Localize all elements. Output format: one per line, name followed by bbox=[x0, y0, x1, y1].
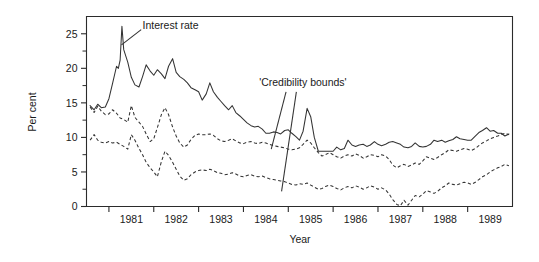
x-tick-label: 1982 bbox=[165, 213, 189, 225]
interest-rate-label: Interest rate bbox=[143, 19, 199, 31]
x-tick-label: 1983 bbox=[209, 213, 233, 225]
x-tick-label: 1986 bbox=[344, 213, 368, 225]
y-tick-label: 20 bbox=[66, 62, 78, 74]
x-tick-label: 1989 bbox=[478, 213, 502, 225]
x-tick-label: 1984 bbox=[254, 213, 278, 225]
x-tick-label: 1985 bbox=[299, 213, 323, 225]
x-axis-title: Year bbox=[289, 233, 311, 245]
x-tick-label: 1988 bbox=[434, 213, 458, 225]
chart-canvas: 0510152025 19811982198319841985198619871… bbox=[0, 0, 539, 262]
credibility-bounds-label: 'Credibility bounds' bbox=[259, 76, 346, 88]
x-axis-tick-labels: 198119821983198419851986198719881989 bbox=[120, 213, 502, 225]
chart-figure: 0510152025 19811982198319841985198619871… bbox=[0, 0, 539, 262]
y-tick-label: 0 bbox=[72, 200, 78, 212]
x-tick-label: 1987 bbox=[389, 213, 413, 225]
y-tick-label: 10 bbox=[66, 131, 78, 143]
x-tick-label: 1981 bbox=[120, 213, 144, 225]
y-tick-label: 15 bbox=[66, 97, 78, 109]
y-tick-label: 5 bbox=[72, 166, 78, 178]
y-tick-label: 25 bbox=[66, 28, 78, 40]
y-axis-title: Per cent bbox=[26, 92, 38, 131]
